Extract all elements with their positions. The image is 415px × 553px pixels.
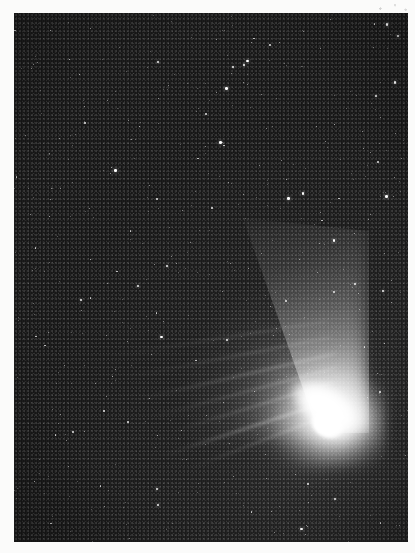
star	[59, 138, 60, 139]
star	[205, 83, 206, 84]
star	[52, 188, 53, 189]
star	[272, 126, 273, 127]
star	[79, 74, 81, 76]
star	[390, 34, 391, 35]
star	[158, 123, 159, 124]
star	[135, 139, 136, 140]
star	[52, 516, 53, 517]
star	[308, 502, 309, 503]
star	[126, 524, 127, 525]
star	[330, 19, 331, 20]
star	[243, 64, 246, 67]
star	[334, 498, 336, 500]
star	[123, 507, 124, 508]
star	[246, 60, 249, 63]
star	[48, 332, 49, 333]
star	[224, 482, 225, 483]
star	[401, 415, 402, 416]
star	[385, 192, 386, 193]
star	[147, 67, 148, 68]
star	[375, 109, 376, 110]
star	[403, 140, 404, 141]
star	[49, 153, 50, 154]
star	[250, 107, 251, 108]
star	[384, 253, 385, 254]
star	[351, 173, 352, 174]
star	[391, 280, 392, 281]
star	[60, 414, 61, 415]
star	[25, 135, 26, 136]
star	[103, 170, 104, 171]
star	[56, 383, 57, 384]
star	[222, 142, 223, 143]
star	[107, 100, 108, 101]
star	[326, 479, 327, 480]
star	[302, 66, 303, 67]
star	[216, 92, 217, 93]
star	[197, 492, 198, 493]
star	[305, 534, 306, 535]
star	[197, 158, 199, 160]
star	[117, 108, 118, 109]
star	[224, 30, 225, 31]
star	[232, 66, 234, 68]
star	[14, 188, 15, 189]
star	[386, 23, 389, 26]
star	[158, 98, 159, 99]
star	[340, 159, 341, 160]
star	[115, 91, 116, 92]
star	[370, 152, 371, 153]
star	[395, 133, 396, 134]
star	[174, 74, 175, 75]
star	[247, 74, 248, 75]
star	[16, 176, 18, 178]
star	[307, 526, 308, 527]
star	[399, 181, 400, 182]
star	[34, 481, 36, 483]
star	[379, 143, 380, 144]
star	[39, 473, 40, 474]
star	[243, 82, 244, 83]
star	[325, 141, 326, 142]
star	[301, 66, 302, 67]
star	[35, 247, 37, 249]
star	[269, 44, 271, 46]
star	[372, 331, 373, 332]
star	[236, 493, 237, 494]
star	[32, 270, 33, 271]
star	[208, 173, 209, 174]
star	[269, 60, 270, 61]
star	[55, 434, 57, 436]
star	[16, 498, 17, 499]
star	[216, 39, 217, 40]
star	[232, 25, 233, 26]
star	[305, 168, 306, 169]
star	[131, 139, 132, 140]
star	[311, 495, 312, 496]
star	[84, 106, 85, 107]
star	[72, 182, 73, 183]
star	[320, 48, 321, 49]
star	[231, 16, 232, 17]
star	[205, 113, 207, 115]
star	[334, 124, 336, 126]
star	[70, 135, 71, 136]
star	[232, 105, 233, 106]
star	[205, 146, 206, 147]
star	[253, 38, 255, 40]
star	[128, 120, 129, 121]
star	[60, 188, 61, 189]
star	[380, 196, 381, 197]
star	[259, 165, 260, 166]
star	[21, 68, 22, 69]
star	[104, 506, 105, 507]
star	[72, 145, 73, 146]
star	[284, 63, 285, 64]
star	[115, 464, 116, 465]
star	[243, 505, 244, 506]
star	[197, 88, 198, 89]
star	[327, 147, 328, 148]
star	[44, 345, 46, 347]
star	[348, 541, 349, 542]
star	[398, 252, 399, 253]
